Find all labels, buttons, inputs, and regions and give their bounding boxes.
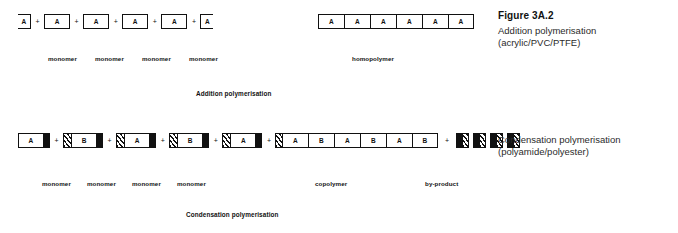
byproduct-particle bbox=[473, 133, 486, 148]
addition-process-label: Addition polymerisation bbox=[196, 90, 271, 97]
monomer-unit-a: A bbox=[222, 133, 262, 148]
homopolymer-label: homopolymer bbox=[352, 55, 394, 62]
polymer-cell: A bbox=[396, 14, 422, 29]
polymer-cell: B bbox=[308, 133, 334, 148]
plus-sign: + bbox=[156, 137, 169, 144]
condensation-products-row: A B A B A B + bbox=[282, 133, 524, 148]
polymer-cell: A bbox=[448, 14, 474, 29]
figure-description-line2: (acrylic/PVC/PTFE) bbox=[498, 37, 676, 49]
monomer-unit-a: A bbox=[18, 14, 31, 29]
addition-reactants-row: A + A + A + A + A + A bbox=[18, 14, 213, 29]
plus-sign: + bbox=[209, 137, 222, 144]
monomer-unit-a: A bbox=[83, 14, 109, 29]
monomer-unit-a: A bbox=[44, 14, 70, 29]
figure-number: Figure 3A.2 bbox=[498, 10, 676, 21]
plus-sign: + bbox=[103, 137, 116, 144]
figure-description-line1: Addition polymerisation bbox=[498, 25, 676, 37]
polymer-cell: A bbox=[344, 14, 370, 29]
end-group-hatched bbox=[169, 133, 177, 148]
monomer-cell: B bbox=[71, 133, 97, 148]
plus-sign: + bbox=[70, 18, 83, 25]
byproduct-hatched-half bbox=[480, 134, 486, 147]
monomer-label: monomer bbox=[87, 180, 116, 187]
polymer-cell: A bbox=[370, 14, 396, 29]
monomer-cell: A bbox=[230, 133, 256, 148]
monomer-label: monomer bbox=[95, 55, 124, 62]
homopolymer-chain: A A A A A A bbox=[318, 14, 474, 29]
polymer-cell: B bbox=[412, 133, 438, 148]
monomer-cell: B bbox=[177, 133, 203, 148]
monomer-cell: A bbox=[124, 133, 150, 148]
plus-sign: + bbox=[187, 18, 200, 25]
copolymer-chain: A B A B A B bbox=[282, 133, 438, 148]
monomer-label: monomer bbox=[48, 55, 77, 62]
plus-sign: + bbox=[109, 18, 122, 25]
monomer-unit-a: A bbox=[18, 133, 50, 148]
end-group-hatched bbox=[222, 133, 230, 148]
byproduct-particle bbox=[456, 133, 469, 148]
figure-description-line2: (polyamide/polyester) bbox=[498, 146, 676, 158]
figure-caption-addition: Figure 3A.2 Addition polymerisation (acr… bbox=[498, 10, 676, 50]
figure-description: Condensation polymerisation (polyamide/p… bbox=[498, 134, 676, 159]
polymer-cell: A bbox=[318, 14, 344, 29]
polymer-cell: A bbox=[386, 133, 412, 148]
plus-sign: + bbox=[438, 137, 456, 144]
end-group-hatched bbox=[63, 133, 71, 148]
polymer-cell: B bbox=[360, 133, 386, 148]
plus-sign: + bbox=[31, 18, 44, 25]
monomer-label: monomer bbox=[177, 180, 206, 187]
monomer-cell: A bbox=[18, 133, 44, 148]
monomer-unit-a: A bbox=[122, 14, 148, 29]
polymer-cell: A bbox=[282, 133, 308, 148]
monomer-label: monomer bbox=[132, 180, 161, 187]
monomer-unit-a: A bbox=[161, 14, 187, 29]
copolymer-label: copolymer bbox=[315, 180, 347, 187]
monomer-label: monomer bbox=[42, 180, 71, 187]
end-group-hatched bbox=[116, 133, 124, 148]
figure-description-line1: Condensation polymerisation bbox=[498, 134, 676, 146]
monomer-label: monomer bbox=[189, 55, 218, 62]
monomer-unit-a: A bbox=[116, 133, 156, 148]
byproduct-label: by-product bbox=[425, 180, 458, 187]
condensation-process-label: Condensation polymerisation bbox=[186, 211, 279, 218]
monomer-unit-b: B bbox=[169, 133, 209, 148]
monomer-unit-a: A bbox=[200, 14, 213, 29]
polymer-cell: A bbox=[334, 133, 360, 148]
plus-sign: + bbox=[262, 137, 275, 144]
monomer-unit-b: B bbox=[63, 133, 103, 148]
byproduct-hatched-half bbox=[463, 134, 469, 147]
figure-description: Addition polymerisation (acrylic/PVC/PTF… bbox=[498, 25, 676, 50]
plus-sign: + bbox=[148, 18, 161, 25]
condensation-reactants-row: A + B + A + B + A + B bbox=[18, 133, 296, 148]
monomer-label: monomer bbox=[142, 55, 171, 62]
polymer-cell: A bbox=[422, 14, 448, 29]
figure-caption-condensation: Condensation polymerisation (polyamide/p… bbox=[498, 134, 676, 159]
plus-sign: + bbox=[50, 137, 63, 144]
